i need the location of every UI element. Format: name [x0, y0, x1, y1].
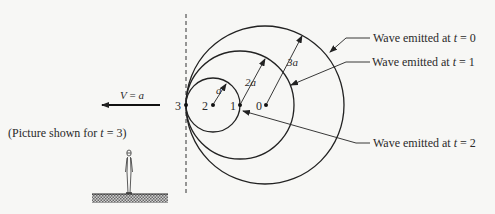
caption-wave-t2: Wave emitted at t = 2 — [373, 136, 476, 150]
leader-line-t1 — [291, 62, 370, 85]
radius-label-3a: 3a — [286, 56, 299, 68]
point-label-1: 1 — [230, 99, 236, 113]
velocity-label: V = a — [120, 89, 144, 101]
wave-diagram: 3 2 1 0 a 2a 3a Wave emitted at t = 0 Wa… — [0, 0, 495, 214]
point-label-0: 0 — [256, 99, 262, 113]
ground-hatch — [92, 194, 168, 203]
source-point-2 — [211, 103, 215, 107]
leader-line-t2 — [243, 111, 370, 143]
source-point-0 — [264, 103, 268, 107]
time-note: (Picture shown for t = 3) — [8, 126, 126, 140]
radius-arrow-3a — [267, 36, 302, 103]
point-label-3: 3 — [175, 99, 181, 113]
radius-label-a: a — [216, 84, 222, 96]
point-label-2: 2 — [202, 99, 208, 113]
caption-wave-t0: Wave emitted at t = 0 — [373, 31, 476, 45]
diagram-canvas: 3 2 1 0 a 2a 3a Wave emitted at t = 0 Wa… — [0, 0, 495, 214]
source-point-3 — [184, 103, 188, 107]
observer-person-icon — [126, 150, 133, 193]
source-point-1 — [238, 103, 242, 107]
radius-label-2a: 2a — [245, 76, 257, 88]
caption-wave-t1: Wave emitted at t = 1 — [372, 55, 475, 69]
leader-line-t0 — [330, 38, 370, 52]
